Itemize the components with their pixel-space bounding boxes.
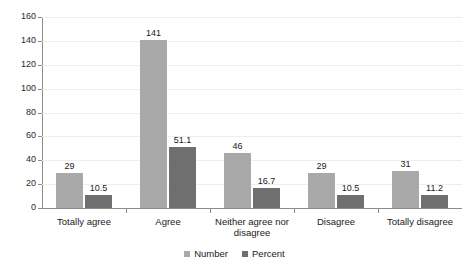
bar-value-label: 46 (218, 141, 257, 151)
x-axis-category-label: Disagree (288, 216, 384, 227)
bar-value-label: 31 (386, 159, 425, 169)
y-axis-tick-label: 140 (0, 36, 36, 45)
x-axis-tick-mark (210, 208, 211, 213)
x-axis-category-label: Neither agree nor disagree (204, 216, 300, 238)
bar-chart: 020406080100120140160 2910.514151.14616.… (0, 0, 469, 271)
bar-percent[interactable] (85, 195, 112, 208)
bar-value-label: 29 (302, 161, 341, 171)
bar-percent[interactable] (169, 147, 196, 208)
bar-value-label: 29 (50, 161, 89, 171)
plot-area: 2910.514151.14616.72910.53111.2 (42, 17, 462, 208)
bar-percent[interactable] (337, 195, 364, 208)
legend-item-number[interactable]: Number (184, 248, 228, 259)
chart-legend: Number Percent (0, 248, 469, 259)
legend-label-percent: Percent (252, 248, 285, 259)
bar-value-label: 10.5 (331, 183, 370, 193)
legend-item-percent[interactable]: Percent (242, 248, 285, 259)
bar-value-label: 16.7 (247, 176, 286, 186)
bar-group: 4616.7 (210, 17, 294, 208)
y-axis-tick-label: 0 (0, 203, 36, 212)
x-axis-category-label: Totally disagree (372, 216, 468, 227)
legend-swatch-number-icon (184, 251, 190, 257)
x-axis-category-label: Agree (120, 216, 216, 227)
bar-value-label: 141 (134, 28, 173, 38)
bar-number[interactable] (140, 40, 167, 208)
y-axis-tick-label: 80 (0, 108, 36, 117)
y-axis-tick-label: 160 (0, 12, 36, 21)
x-axis-tick-mark (378, 208, 379, 213)
y-axis-tick-label: 60 (0, 131, 36, 140)
y-axis-tick-label: 20 (0, 179, 36, 188)
bar-value-label: 51.1 (163, 135, 202, 145)
x-axis-category-label: Totally agree (36, 216, 132, 227)
bar-group: 3111.2 (378, 17, 462, 208)
y-axis-tick-label: 100 (0, 84, 36, 93)
bar-value-label: 11.2 (415, 183, 454, 193)
legend-swatch-percent-icon (242, 251, 248, 257)
y-axis-tick-label: 120 (0, 60, 36, 69)
bar-group: 2910.5 (42, 17, 126, 208)
x-axis-tick-mark (126, 208, 127, 213)
bar-group: 2910.5 (294, 17, 378, 208)
bar-percent[interactable] (253, 188, 280, 208)
bar-group: 14151.1 (126, 17, 210, 208)
bar-percent[interactable] (421, 195, 448, 208)
legend-label-number: Number (194, 248, 228, 259)
y-axis-tick-label: 40 (0, 155, 36, 164)
bar-value-label: 10.5 (79, 183, 118, 193)
x-axis-tick-mark (294, 208, 295, 213)
x-axis-baseline (42, 208, 462, 209)
